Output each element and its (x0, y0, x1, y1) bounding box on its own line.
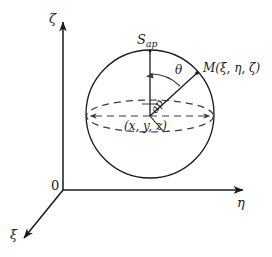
origin-label: 0 (51, 179, 59, 192)
theta-angle-label: θ (175, 64, 182, 76)
eta-axis-label: η (237, 196, 245, 209)
xi-axis-line (24, 190, 63, 238)
geometry-diagram: ζ η ξ 0 Sap M(ξ, η, ζ) θ ap (x, y, z) (0, 0, 272, 257)
xi-axis-label: ξ (10, 228, 17, 241)
sphere-apex-label: Sap (137, 33, 157, 48)
point-m-marker (195, 71, 199, 75)
apex-label-base: S (137, 32, 146, 47)
apex-label-subscript: ap (146, 38, 158, 49)
point-m-label: M(ξ, η, ζ) (203, 62, 260, 74)
zeta-axis-label: ζ (49, 12, 56, 25)
sphere-center-label: (x, y, z) (124, 120, 167, 132)
apex-marker (149, 50, 152, 53)
